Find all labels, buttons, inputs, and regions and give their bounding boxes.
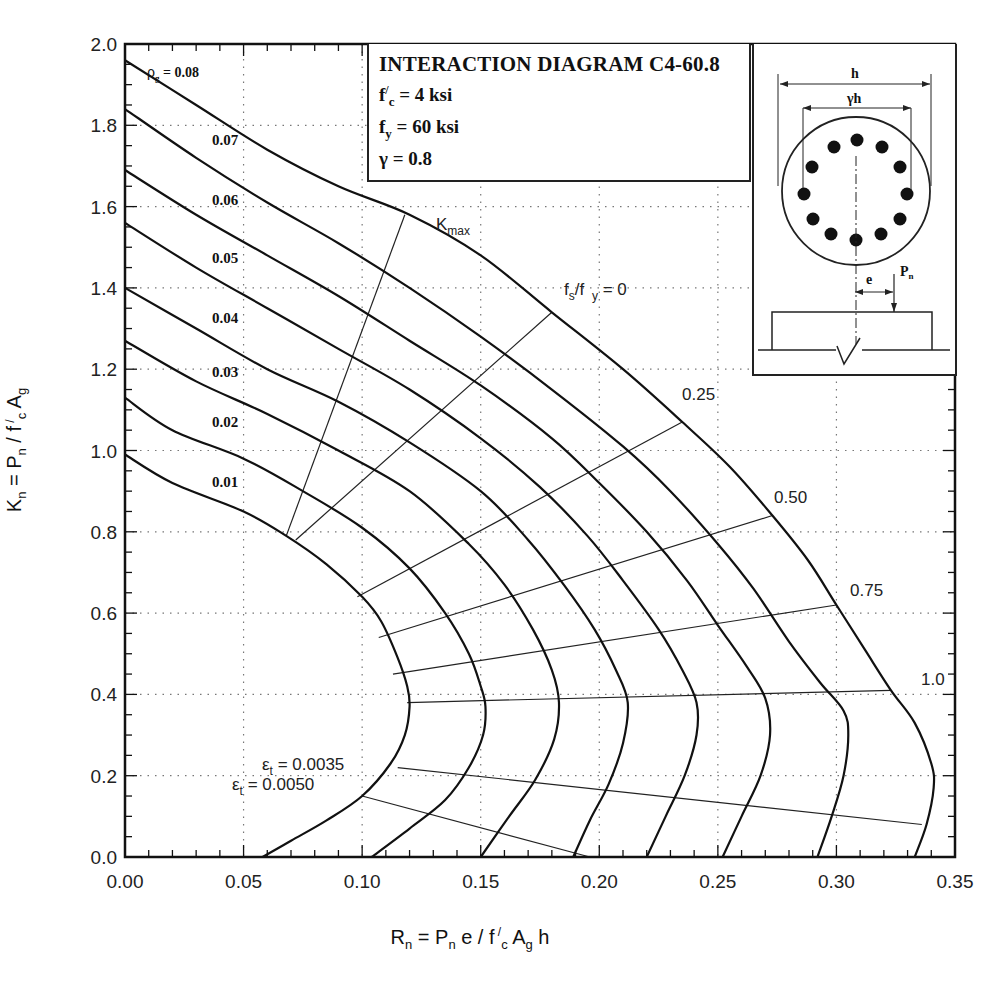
rho-label: 0.05 — [212, 250, 238, 266]
guide-line — [393, 605, 836, 674]
rho-label: 0.06 — [212, 192, 239, 208]
rho-label: 0.03 — [212, 364, 238, 380]
load-label: Pn — [900, 264, 914, 281]
x-tick-label: 0.05 — [225, 871, 262, 892]
x-tick-label: 0.15 — [462, 871, 499, 892]
y-tick-label: 1.8 — [91, 115, 117, 136]
guide-label: 0.50 — [774, 488, 807, 507]
x-tick-label: 0.00 — [107, 871, 144, 892]
guide-line — [407, 690, 891, 702]
guide-line — [357, 422, 682, 597]
y-tick-label: 1.2 — [91, 359, 117, 380]
y-tick-label: 0.4 — [91, 684, 118, 705]
x-tick-label: 0.30 — [818, 871, 855, 892]
y-tick-labels: 0.00.20.40.60.81.01.21.41.61.82.0 — [91, 34, 118, 868]
guide-label: 0.75 — [850, 581, 883, 600]
y-tick-label: 1.0 — [91, 441, 117, 462]
circular-column-icon: h γh e Pn — [754, 44, 959, 376]
guide-line — [362, 796, 590, 857]
y-tick-label: 0.0 — [91, 847, 117, 868]
fc-parameter: f/c = 4 ksi — [379, 83, 739, 110]
guide-label: y = 0 — [592, 280, 627, 303]
x-tick-label: 0.10 — [344, 871, 381, 892]
gamma-parameter: γ = 0.8 — [379, 148, 739, 170]
title-box: INTERACTION DIAGRAM C4-60.8 f/c = 4 ksi … — [367, 44, 751, 182]
rho-curve — [125, 341, 559, 857]
y-tick-label: 1.4 — [91, 278, 118, 299]
guide-label: fs/f — [564, 280, 584, 303]
y-tick-label: 0.6 — [91, 603, 117, 624]
rho-curve — [125, 170, 770, 857]
eccentricity-label: e — [866, 272, 872, 287]
x-tick-label: 0.20 — [581, 871, 618, 892]
x-tick-labels: 0.000.050.100.150.200.250.300.35 — [107, 871, 974, 892]
gamma-h-label: γh — [846, 91, 862, 106]
x-tick-label: 0.35 — [937, 871, 974, 892]
y-axis-label: Kn = Pn / f /c Ag — [3, 388, 30, 512]
guide-label: εt = 0.0050 — [232, 775, 314, 798]
column-section-diagram: h γh e Pn — [752, 44, 957, 376]
rho-curve — [125, 455, 410, 857]
guide-label: 1.0 — [921, 670, 945, 689]
y-tick-label: 0.8 — [91, 522, 117, 543]
rho-label: 0.02 — [212, 414, 238, 430]
rho-curve — [125, 223, 698, 857]
rho-label: 0.01 — [212, 474, 238, 490]
rho-label: 0.04 — [212, 310, 239, 326]
guide-label: Kmax — [436, 215, 470, 238]
y-tick-label: 2.0 — [91, 34, 117, 55]
x-tick-label: 0.25 — [699, 871, 736, 892]
fy-parameter: fy = 60 ksi — [379, 116, 739, 142]
y-tick-label: 1.6 — [91, 197, 117, 218]
guide-label: 0.25 — [682, 385, 715, 404]
x-axis-label: Rn = Pn e / f /c Ag h — [391, 925, 550, 952]
h-dimension-label: h — [851, 66, 859, 81]
rho-label: ρg = 0.08 — [147, 64, 199, 83]
y-tick-label: 0.2 — [91, 766, 117, 787]
rho-label: 0.07 — [212, 132, 239, 148]
chart-title: INTERACTION DIAGRAM C4-60.8 — [379, 52, 739, 77]
rho-curve — [125, 288, 628, 857]
